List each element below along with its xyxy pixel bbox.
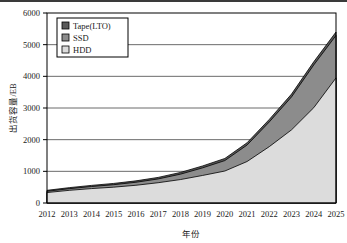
y-tick-label: 4000 — [23, 71, 40, 81]
chart-legend: Tape(LTO)SSDHDD — [57, 18, 128, 57]
legend-label: HDD — [73, 45, 91, 55]
x-tick-label: 2012 — [39, 209, 56, 219]
y-tick-label: 3000 — [23, 103, 40, 113]
x-tick-label: 2023 — [283, 209, 300, 219]
legend-swatch-hdd — [62, 46, 69, 53]
y-axis-ticks: 0100020003000400050006000 — [23, 8, 47, 208]
y-axis-title: 出货容量/EB — [8, 83, 18, 133]
x-tick-label: 2015 — [105, 209, 122, 219]
y-tick-label: 5000 — [23, 40, 40, 50]
x-tick-label: 2014 — [83, 209, 101, 219]
y-tick-label: 6000 — [23, 8, 40, 18]
y-tick-label: 2000 — [23, 135, 40, 145]
x-tick-label: 2019 — [194, 209, 211, 219]
x-tick-label: 2024 — [305, 209, 323, 219]
legend-swatch-ssd — [62, 34, 69, 41]
legend-swatch-tape-lto — [62, 22, 69, 29]
x-tick-label: 2018 — [172, 209, 189, 219]
stacked-area-chart: 0100020003000400050006000 20122013201420… — [0, 0, 347, 243]
x-tick-label: 2017 — [150, 209, 167, 219]
legend-label: Tape(LTO) — [73, 21, 111, 31]
chart-figure: 0100020003000400050006000 20122013201420… — [0, 0, 347, 243]
x-tick-label: 2021 — [239, 209, 256, 219]
x-tick-label: 2016 — [127, 209, 144, 219]
x-axis-title: 年份 — [182, 229, 200, 239]
x-tick-label: 2022 — [261, 209, 278, 219]
x-tick-label: 2013 — [61, 209, 78, 219]
x-tick-label: 2020 — [216, 209, 233, 219]
y-tick-label: 0 — [36, 198, 40, 208]
x-axis-ticks: 2012201320142015201620172018201920202021… — [39, 209, 345, 219]
legend-label: SSD — [73, 33, 89, 43]
top-rule-divider — [0, 0, 347, 2]
x-tick-label: 2025 — [328, 209, 345, 219]
y-tick-label: 1000 — [23, 166, 40, 176]
